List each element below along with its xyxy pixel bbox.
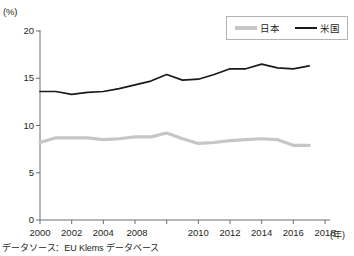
source-note: データソース：EU Klems データベース [2,241,159,254]
x-axis-tick-label: 2008 [117,227,157,238]
legend-label-usa: 米国 [320,21,340,35]
series-line-usa [40,64,309,94]
x-axis-unit-label: (年) [330,228,345,241]
legend: 日本 米国 [226,16,348,40]
series-line-japan [40,133,309,145]
axes-group [36,30,330,224]
legend-swatch-usa-icon [295,27,317,29]
legend-item-japan: 日本 [235,21,280,35]
chart-container: (%) 20151050 200020022004200820102012201… [0,0,354,256]
legend-item-usa: 米国 [295,21,340,35]
series-group [40,64,309,145]
legend-label-japan: 日本 [260,21,280,35]
legend-swatch-japan-icon [235,26,257,30]
